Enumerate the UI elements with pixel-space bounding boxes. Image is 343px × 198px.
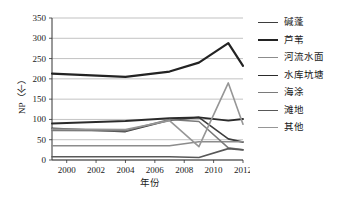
x-tick-label: 2012 (234, 165, 250, 175)
legend-item[interactable]: 海涂 (258, 84, 343, 102)
legend-item[interactable]: 滩地 (258, 102, 343, 120)
legend-swatch-icon (258, 110, 278, 111)
chart-legend: 碱蓬芦苇河流水面水库坑塘海涂滩地其他 (258, 14, 343, 137)
legend-item[interactable]: 其他 (258, 119, 343, 137)
legend-label: 碱蓬 (284, 18, 304, 28)
legend-swatch-icon (258, 92, 278, 93)
legend-label: 其他 (284, 123, 304, 133)
legend-item[interactable]: 碱蓬 (258, 14, 343, 32)
legend-label: 海涂 (284, 88, 304, 98)
x-axis-title: 年份 (55, 175, 245, 189)
legend-swatch-icon (258, 57, 278, 58)
x-tick-label: 2008 (175, 165, 194, 175)
plot-area: NP（个） 0501001502002503003502000200220042… (0, 0, 250, 198)
y-tick-label: 100 (33, 114, 47, 124)
x-tick-label: 2010 (205, 165, 224, 175)
legend-item[interactable]: 河流水面 (258, 49, 343, 67)
x-tick-label: 2006 (146, 165, 165, 175)
y-tick-label: 350 (33, 13, 47, 23)
legend-item[interactable]: 芦苇 (258, 32, 343, 50)
x-tick-label: 2004 (116, 165, 135, 175)
series-line (52, 149, 243, 158)
y-tick-label: 0 (42, 155, 47, 165)
series-line (52, 142, 243, 146)
legend-label: 滩地 (284, 106, 304, 116)
series-line (52, 117, 243, 123)
y-tick-label: 200 (33, 74, 47, 84)
x-tick-label: 2000 (58, 165, 77, 175)
y-tick-label: 250 (33, 54, 47, 64)
line-chart: NP（个） 0501001502002503003502000200220042… (0, 0, 343, 198)
series-line (52, 83, 243, 147)
legend-swatch-icon (258, 39, 278, 41)
x-tick-label: 2002 (87, 165, 105, 175)
y-tick-label: 300 (33, 33, 47, 43)
legend-label: 水库坑塘 (284, 71, 324, 81)
y-tick-label: 50 (37, 135, 47, 145)
legend-label: 河流水面 (284, 53, 324, 63)
legend-label: 芦苇 (284, 36, 304, 46)
y-tick-label: 150 (33, 94, 47, 104)
legend-swatch-icon (258, 75, 278, 76)
legend-item[interactable]: 水库坑塘 (258, 67, 343, 85)
legend-swatch-icon (258, 22, 278, 23)
series-line (52, 43, 243, 77)
legend-swatch-icon (258, 127, 278, 128)
chart-canvas: 0501001502002503003502000200220042006200… (0, 0, 250, 198)
